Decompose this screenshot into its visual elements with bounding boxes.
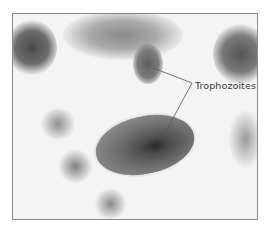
trophozoites-label: Trophozoites [195,80,256,91]
leader-lines [0,0,271,230]
